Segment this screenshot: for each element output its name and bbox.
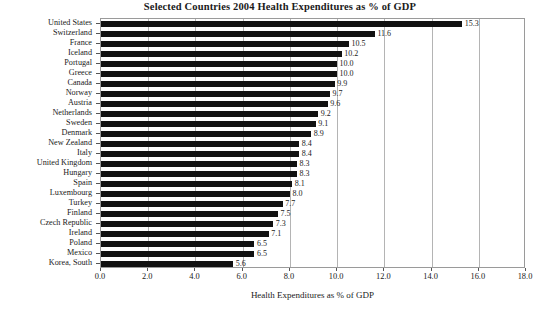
bar xyxy=(101,81,335,87)
bar xyxy=(101,121,316,127)
x-axis-tick-label: 4.0 xyxy=(189,272,199,281)
bar xyxy=(101,261,233,267)
bar xyxy=(101,171,297,177)
x-axis-tick-label: 0.0 xyxy=(95,272,105,281)
x-axis-tick-label: 16.0 xyxy=(470,272,485,281)
x-axis-ticks: 0.02.04.06.08.010.012.014.016.018.0 xyxy=(100,268,525,273)
x-axis-tick xyxy=(147,268,148,271)
bar-value-label: 9.7 xyxy=(333,90,343,98)
bar xyxy=(101,251,254,257)
bar-value-label: 8.4 xyxy=(302,150,312,158)
plot-area: 15.311.610.510.210.010.09.99.79.69.29.18… xyxy=(100,18,525,268)
bar xyxy=(101,201,283,207)
bar-value-label: 8.4 xyxy=(302,140,312,148)
bar-value-label: 10.2 xyxy=(344,50,358,58)
x-axis-tick-label: 10.0 xyxy=(329,272,344,281)
y-axis-category-label: Greece xyxy=(69,69,92,77)
bar-value-label: 10.5 xyxy=(351,40,365,48)
y-axis-category-label: New Zealand xyxy=(48,139,92,147)
bar-value-label: 5.6 xyxy=(236,260,246,268)
x-axis-tick xyxy=(478,268,479,271)
gridline xyxy=(432,19,433,267)
y-axis-category-label: United Kingdom xyxy=(37,159,92,167)
bar xyxy=(101,131,311,137)
bar-value-label: 6.5 xyxy=(257,250,267,258)
y-axis-category-label: Hungary xyxy=(63,169,92,177)
bar xyxy=(101,91,330,97)
bar-value-label: 9.1 xyxy=(318,120,328,128)
bar xyxy=(101,111,318,117)
x-axis-tick xyxy=(100,268,101,271)
bar xyxy=(101,221,273,227)
y-axis-category-label: Sweden xyxy=(66,119,92,127)
x-axis-tick-label: 2.0 xyxy=(142,272,152,281)
bar-value-label: 15.3 xyxy=(465,20,479,28)
y-axis-category-label: Portugal xyxy=(64,59,92,67)
x-axis-tick xyxy=(383,268,384,271)
bar xyxy=(101,31,375,37)
bar xyxy=(101,61,337,67)
bar xyxy=(101,161,297,167)
bar xyxy=(101,71,337,77)
x-axis-tick xyxy=(525,268,526,271)
y-axis-category-label: Mexico xyxy=(67,249,92,257)
bar xyxy=(101,211,278,217)
bar-value-label: 10.0 xyxy=(340,60,354,68)
chart-title: Selected Countries 2004 Health Expenditu… xyxy=(0,1,560,12)
y-axis-category-label: Ireland xyxy=(69,229,92,237)
x-axis-tick-label: 12.0 xyxy=(376,272,391,281)
gridline xyxy=(384,19,385,267)
y-axis-category-label: Finland xyxy=(67,209,92,217)
x-axis-title: Health Expenditures as % of GDP xyxy=(100,290,525,300)
bar-value-label: 7.3 xyxy=(276,220,286,228)
bar-value-label: 10.0 xyxy=(340,70,354,78)
bar-value-label: 11.6 xyxy=(377,30,391,38)
y-axis-category-label: France xyxy=(70,39,92,47)
y-axis-category-label: Iceland xyxy=(68,49,92,57)
x-axis-tick-label: 14.0 xyxy=(423,272,438,281)
y-axis-category-label: Poland xyxy=(69,239,92,247)
bar-value-label: 7.5 xyxy=(281,210,291,218)
bar-value-label: 8.1 xyxy=(295,180,305,188)
y-axis-category-label: Norway xyxy=(66,89,92,97)
bar xyxy=(101,231,269,237)
y-axis-category-label: Turkey xyxy=(69,199,92,207)
bar-value-label: 9.6 xyxy=(330,100,340,108)
bar-value-label: 8.3 xyxy=(299,160,309,168)
y-axis-category-label: Italy xyxy=(77,149,92,157)
x-axis-tick xyxy=(289,268,290,271)
bar xyxy=(101,151,299,157)
bar-value-label: 6.5 xyxy=(257,240,267,248)
bar-value-label: 8.0 xyxy=(292,190,302,198)
x-axis-tick-label: 8.0 xyxy=(284,272,294,281)
bar xyxy=(101,241,254,247)
bar xyxy=(101,181,292,187)
bar xyxy=(101,51,342,57)
x-axis-tick xyxy=(431,268,432,271)
bar-value-label: 8.3 xyxy=(299,170,309,178)
y-axis-category-label: Austria xyxy=(68,99,92,107)
y-axis-category-label: Spain xyxy=(73,179,92,187)
x-axis-tick-label: 18.0 xyxy=(518,272,533,281)
bar-value-label: 8.9 xyxy=(314,130,324,138)
x-axis-tick xyxy=(194,268,195,271)
bar xyxy=(101,101,328,107)
x-axis-tick xyxy=(336,268,337,271)
bar xyxy=(101,141,299,147)
y-axis-category-label: Denmark xyxy=(62,129,92,137)
y-axis-category-labels: United StatesSwitzerlandFranceIcelandPor… xyxy=(0,18,96,268)
gridline xyxy=(479,19,480,267)
health-expenditures-bar-chart: Selected Countries 2004 Health Expenditu… xyxy=(0,0,560,319)
bar-value-label: 9.2 xyxy=(321,110,331,118)
bar-value-label: 9.9 xyxy=(337,80,347,88)
x-axis-tick-label: 6.0 xyxy=(236,272,246,281)
y-axis-category-label: Korea, South xyxy=(49,259,92,267)
y-axis-category-label: Netherlands xyxy=(52,109,92,117)
y-axis-category-label: Czech Republic xyxy=(40,219,92,227)
bar xyxy=(101,21,462,27)
y-axis-category-label: Luxembourg xyxy=(50,189,92,197)
x-axis-tick xyxy=(242,268,243,271)
bar-value-label: 7.7 xyxy=(285,200,295,208)
y-axis-category-label: Switzerland xyxy=(53,29,92,37)
bar xyxy=(101,191,290,197)
